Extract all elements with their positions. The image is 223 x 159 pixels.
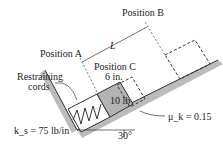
spring-constant-label: k_s = 75 lb/in: [14, 126, 69, 136]
offset-label: 6 in.: [105, 72, 123, 82]
diagram: Position B Position A L Position C 6 in.…: [0, 0, 223, 159]
cords-label: cords: [28, 82, 50, 92]
position-b-label: Position B: [122, 8, 164, 18]
length-label: L: [110, 41, 116, 51]
weight-label: 10 lb: [110, 96, 130, 106]
position-a-label: Position A: [40, 49, 82, 59]
angle-label: 30°: [118, 131, 132, 141]
friction-label: μ_k = 0.15: [168, 112, 212, 122]
